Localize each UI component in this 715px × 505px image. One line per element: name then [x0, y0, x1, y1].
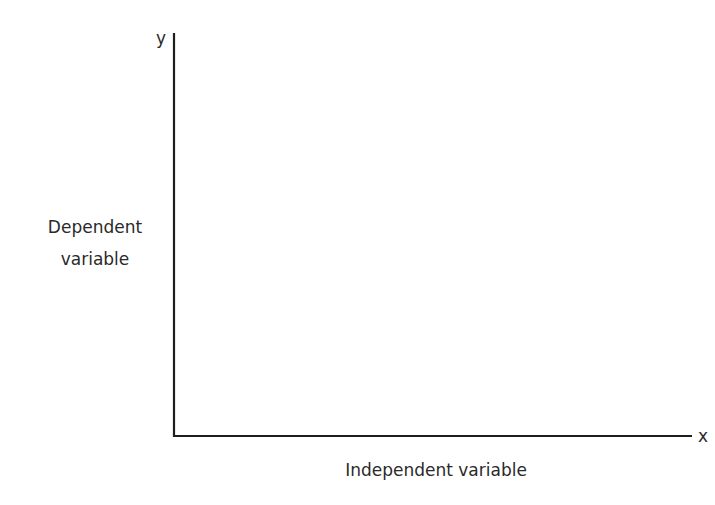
y-axis: y Dependent variable: [48, 28, 174, 437]
x-axis-label: Independent variable: [345, 460, 527, 480]
axes-diagram: y Dependent variable x Independent varia…: [0, 0, 715, 505]
y-axis-symbol: y: [156, 28, 166, 48]
x-axis-symbol: x: [698, 426, 708, 446]
y-axis-label-line-2: variable: [61, 249, 130, 269]
x-axis: x Independent variable: [173, 426, 708, 480]
y-axis-label-line-1: Dependent: [48, 217, 143, 237]
